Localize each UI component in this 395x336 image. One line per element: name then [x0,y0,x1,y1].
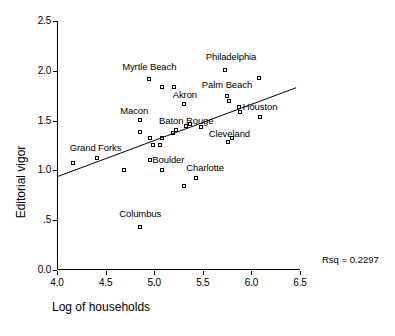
x-tick-label: 4.5 [90,278,122,288]
x-axis-label: Log of households [52,300,150,314]
x-tick-label: 4.0 [41,278,73,288]
data-point-marker [238,110,242,114]
data-point-label: Cleveland [209,129,250,139]
data-point-marker [147,77,151,81]
plot-inner: Myrtle BeachPhiladelphiaPalm BeachAkronH… [58,21,300,269]
data-point-label: Akron [173,90,197,100]
data-point-marker [182,102,186,106]
x-tick-mark [154,271,155,275]
plot-area: Myrtle BeachPhiladelphiaPalm BeachAkronH… [57,21,300,270]
data-point-marker [199,125,203,129]
data-point-marker [158,143,162,147]
rsq-annotation: Rsq = 0.2297 [322,254,379,265]
x-tick-mark [300,271,301,275]
data-point-marker [138,118,142,122]
data-point-label: Columbus [119,209,161,219]
data-point-marker [174,128,178,132]
x-tick-mark [106,271,107,275]
data-point-label: Charlotte [186,163,224,173]
y-tick-mark [53,170,57,171]
x-tick-mark [203,271,204,275]
data-point-marker [138,225,142,229]
data-point-marker [223,68,227,72]
data-point-marker [148,158,152,162]
scatter-plot-figure: Myrtle BeachPhiladelphiaPalm BeachAkronH… [0,0,395,336]
x-tick-mark [251,271,252,275]
data-point-marker [151,143,155,147]
data-point-label: Boulder [152,155,184,165]
y-tick-mark [53,220,57,221]
x-tick-mark [57,271,58,275]
data-point-label: Macon [120,106,148,116]
data-point-label: Houston [243,102,278,112]
y-tick-label: 2.0 [19,66,51,76]
x-tick-label: 5.5 [187,278,219,288]
data-point-marker [160,85,164,89]
y-tick-mark [53,71,57,72]
data-point-marker [182,184,186,188]
y-tick-label: 0.0 [19,265,51,275]
y-tick-mark [53,121,57,122]
data-point-marker [225,94,229,98]
y-axis-label: Editorial vigor [14,117,28,247]
data-point-marker [148,136,152,140]
data-point-label: Philadelphia [206,52,257,62]
data-point-marker [160,168,164,172]
y-tick-mark [53,21,57,22]
data-point-marker [160,136,164,140]
x-tick-label: 6.0 [235,278,267,288]
data-point-marker [194,176,198,180]
data-point-label: Baton Rouge [159,116,213,126]
data-point-label: Palm Beach [202,80,252,90]
data-point-marker [226,140,230,144]
data-point-marker [227,99,231,103]
data-point-label: Myrtle Beach [122,62,176,72]
data-point-marker [122,168,126,172]
data-point-marker [95,156,99,160]
y-tick-label: 2.5 [19,16,51,26]
data-point-marker [258,115,262,119]
x-tick-label: 5.0 [138,278,170,288]
data-point-marker [138,130,142,134]
data-point-marker [71,161,75,165]
x-tick-label: 6.5 [284,278,316,288]
data-point-marker [257,76,261,80]
data-point-marker [237,105,241,109]
data-point-label: Grand Forks [70,143,122,153]
